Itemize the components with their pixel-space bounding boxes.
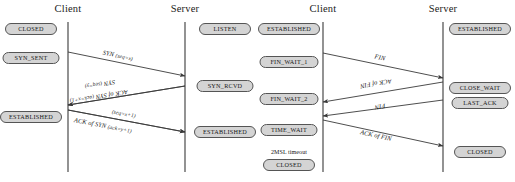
state-server-close-wait: CLOSE_WAIT <box>449 82 511 94</box>
tcp-connection-teardown: ClientServerFINACK of FINFINACK of FINES… <box>258 0 515 182</box>
state-client-closed: CLOSED <box>5 23 57 35</box>
state-server-last-ack: LAST_ACK <box>452 97 509 109</box>
state-server-closed: CLOSED <box>454 146 506 158</box>
note-msl-timeout: 2MSL timeout <box>271 149 307 155</box>
column-title-server: Server <box>171 3 200 14</box>
state-server-established: ESTABLISHED <box>449 23 511 35</box>
message-name: FIN <box>374 103 385 111</box>
state-server-listen: LISTEN <box>199 23 251 35</box>
tcp-three-way-handshake: ClientServerSYN (seq=x)SYN (seq=y)ACK of… <box>0 0 258 182</box>
state-client-syn-sent: SYN_SENT <box>3 52 60 64</box>
state-client-established: ESTABLISHED <box>0 111 62 123</box>
state-client-time-wait: TIME_WAIT <box>261 124 318 136</box>
state-client-established: ESTABLISHED <box>258 23 320 35</box>
state-server-established: ESTABLISHED <box>194 126 256 138</box>
state-client-fin-wait-1: FIN_WAIT_1 <box>260 56 319 68</box>
state-client-fin-wait-2: FIN_WAIT_2 <box>260 93 319 105</box>
column-title-server: Server <box>429 3 458 14</box>
state-client-closed: CLOSED <box>263 159 315 171</box>
message-label-fin-2: FIN <box>374 103 385 111</box>
column-title-client: Client <box>55 3 82 14</box>
state-server-syn-rcvd: SYN_RCVD <box>197 80 254 92</box>
tcp-diagram-figure: ClientServerSYN (seq=x)SYN (seq=y)ACK of… <box>0 0 515 182</box>
column-title-client: Client <box>310 3 337 14</box>
